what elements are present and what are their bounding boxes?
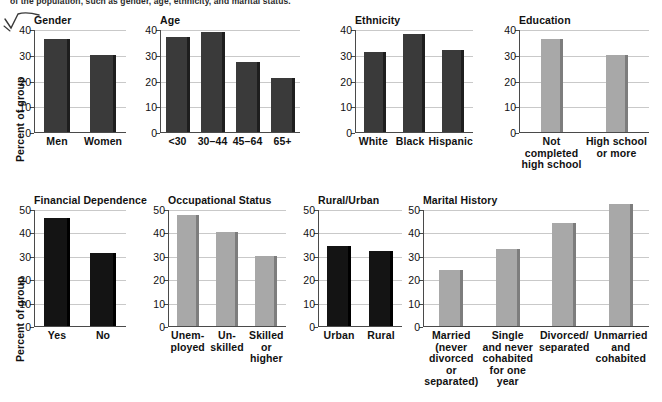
chart-row-top: Percent of group Gender010203040MenWomen…: [0, 14, 662, 194]
bar-face: [403, 34, 422, 132]
bar-slot: [247, 210, 286, 326]
bar-financial-dependence-0: [44, 218, 70, 326]
bar-education-0: [541, 39, 563, 132]
bar-side: [257, 62, 260, 132]
y-tick-label: 40: [19, 227, 34, 239]
plot-area-occupational-status: 01020304050: [168, 210, 286, 327]
y-tick-label: 20: [340, 76, 355, 88]
y-tick-label: 0: [25, 127, 34, 139]
bar-face: [44, 39, 67, 132]
bar-face: [201, 32, 222, 132]
y-tick-label: 10: [19, 298, 34, 310]
y-tick-label: 30: [145, 50, 160, 62]
bar-face: [166, 37, 187, 132]
bar-slot: [318, 210, 360, 326]
chart-title-education: Education: [519, 14, 649, 26]
bar-side: [292, 78, 295, 132]
plot-area-age: 010203040: [160, 30, 300, 133]
bar-face: [442, 50, 461, 132]
y-tick-label: 10: [153, 298, 168, 310]
y-tick-label: 30: [19, 251, 34, 263]
chart-panel-education: Education010203040Not completedhigh scho…: [519, 14, 649, 171]
x-axis-line: [168, 326, 286, 327]
bar-side: [422, 34, 425, 132]
bar-face: [90, 55, 113, 132]
bar-side: [274, 256, 277, 326]
y-tick-label: 50: [153, 204, 168, 216]
x-tick-label: Rural: [360, 330, 402, 342]
x-axis-line: [355, 132, 473, 133]
bar-slot: [195, 30, 230, 132]
bar-side: [222, 32, 225, 132]
y-tick-label: 40: [504, 24, 519, 36]
bar-marital-history-1: [496, 249, 520, 326]
y-tick-label: 20: [145, 76, 160, 88]
bar-occupational-status-0: [177, 215, 199, 326]
x-axis-line: [34, 326, 126, 327]
plot-area-financial-dependence: 01020304050: [34, 210, 126, 327]
x-axis-line: [34, 132, 126, 133]
bar-side: [67, 218, 70, 326]
x-axis-line: [519, 132, 649, 133]
bar-face: [606, 55, 625, 132]
bar-rural-urban-0: [327, 246, 351, 326]
chart-title-ethnicity: Ethnicity: [355, 14, 473, 26]
chart-panel-age: Age010203040<3030–4445–6465+: [160, 14, 300, 148]
bar-slot: [34, 210, 80, 326]
x-tick-label: Married(neverdivorced orseparated): [423, 330, 480, 388]
y-tick-label: 30: [408, 251, 423, 263]
bar-occupational-status-2: [255, 256, 277, 326]
bar-side: [630, 204, 633, 326]
bar-ethnicity-2: [442, 50, 464, 132]
y-axis-label-bottom: Percent of group: [14, 276, 26, 362]
chart-title-financial-dependence: Financial Dependence: [34, 194, 147, 206]
y-tick-label: 40: [153, 227, 168, 239]
x-tick-label: Unmarriedandcohabited: [593, 330, 650, 388]
bar-side: [235, 232, 238, 326]
y-tick-label: 30: [303, 251, 318, 263]
bar-slot: [360, 210, 402, 326]
x-axis-labels-age: <3030–4445–6465+: [160, 136, 300, 148]
y-tick-label: 0: [151, 127, 160, 139]
bar-financial-dependence-1: [90, 253, 116, 326]
bar-gender-1: [90, 55, 116, 132]
x-tick-label: Men: [34, 136, 80, 148]
bar-face: [236, 62, 257, 132]
bar-slot: [160, 30, 195, 132]
y-tick-label: 40: [408, 227, 423, 239]
x-axis-labels-education: Not completedhigh schoolHigh schoolor mo…: [519, 136, 649, 171]
y-tick-label: 10: [145, 101, 160, 113]
x-tick-label: Not completedhigh school: [519, 136, 584, 171]
bar-slot: [34, 30, 80, 132]
bar-face: [90, 253, 113, 326]
chart-panel-occupational-status: Occupational Status01020304050Unem-ploye…: [168, 194, 286, 365]
y-tick-label: 30: [19, 50, 34, 62]
x-axis-line: [423, 326, 649, 327]
bar-age-1: [201, 32, 225, 132]
bar-slot: [80, 210, 126, 326]
x-tick-label: Divorced/separated: [536, 330, 593, 388]
y-tick-label: 0: [309, 321, 318, 333]
x-tick-label: 65+: [265, 136, 300, 148]
y-tick-label: 30: [340, 50, 355, 62]
y-tick-label: 40: [340, 24, 355, 36]
bar-slot: [207, 210, 246, 326]
bar-face: [327, 246, 348, 326]
x-tick-label: Hispanic: [428, 136, 473, 148]
x-tick-label: High schoolor more: [584, 136, 649, 171]
y-tick-label: 0: [414, 321, 423, 333]
bar-ethnicity-1: [403, 34, 425, 132]
x-tick-label: No: [80, 330, 126, 342]
y-tick-label: 40: [19, 24, 34, 36]
x-tick-label: 45–64: [230, 136, 265, 148]
x-tick-label: 30–44: [195, 136, 230, 148]
bar-face: [255, 256, 274, 326]
bar-series-rural-urban: [318, 210, 402, 326]
x-axis-labels-gender: MenWomen: [34, 136, 126, 148]
x-tick-label: Urban: [318, 330, 360, 342]
x-tick-label: Un-skilled: [207, 330, 246, 365]
bar-side: [67, 39, 70, 132]
x-axis-line: [318, 326, 402, 327]
x-axis-labels-financial-dependence: YesNo: [34, 330, 126, 342]
chart-panel-marital-history: Marital History01020304050Married(neverd…: [423, 194, 649, 388]
